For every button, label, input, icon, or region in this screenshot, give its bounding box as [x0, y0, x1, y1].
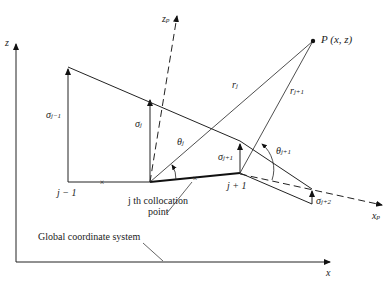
global-system-label: Global coordinate system: [38, 232, 140, 242]
panel-z-axis: [150, 16, 177, 182]
node-j-plus-1-label: j + 1: [227, 181, 247, 191]
panel-z-label: zp: [162, 14, 169, 24]
collocation-label-line2: point: [148, 207, 169, 217]
global-system-leader: [143, 243, 163, 261]
source-distribution: [68, 67, 312, 189]
global-x-label: x: [326, 268, 330, 278]
sigma-j-label: σj: [135, 119, 142, 129]
collocation-label: j th collocation: [128, 196, 188, 206]
point-p-label: P (x, z): [321, 34, 352, 45]
sigma-j-plus-1-label: σj+1: [218, 152, 233, 162]
r-j-plus-1-label: rj+1: [290, 86, 304, 96]
theta-j-label: θj: [177, 137, 184, 147]
sigma-j-plus-2-label: σj+2: [316, 196, 331, 206]
svg-text:×: ×: [193, 174, 198, 183]
panel-method-diagram: × × z x zp xp P (x, z) rj rj+1 σj−1 σj σ…: [0, 0, 392, 284]
r-j-label: rj: [232, 80, 238, 90]
global-z-label: z: [5, 38, 9, 48]
theta-j-plus-1-label: θj+1: [276, 146, 291, 156]
panel-j-plus-1: [240, 173, 312, 204]
panel-x-label: xp: [372, 211, 380, 221]
point-p: [311, 39, 315, 43]
sigma-j-minus-1-label: σj−1: [46, 110, 61, 120]
theta-j-arc: [172, 165, 176, 180]
node-j-minus-1-label: j − 1: [57, 188, 77, 198]
svg-text:×: ×: [100, 178, 105, 187]
panel-x-axis: [240, 174, 382, 205]
